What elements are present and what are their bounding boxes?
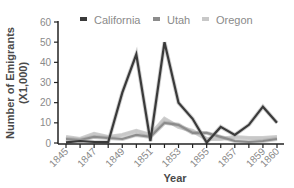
x-tick-label: 1849 — [103, 145, 127, 169]
legend-item-california: California — [80, 14, 141, 26]
x-tick-label: 1855 — [188, 145, 212, 169]
y-axis-title-line2: (X1,000) — [17, 62, 29, 105]
x-axis-title: Year — [163, 172, 187, 184]
y-tick-label: 30 — [40, 77, 52, 88]
axes: 0102030405060 18451847184918511853185518… — [40, 17, 284, 170]
legend: CaliforniaUtahOregon — [80, 14, 253, 26]
y-tick-label: 60 — [40, 17, 52, 28]
series-california-line — [66, 42, 277, 142]
x-tick-label: 1845 — [47, 145, 71, 169]
legend-item-utah: Utah — [153, 14, 190, 26]
x-tick-label: 1853 — [159, 145, 183, 169]
y-ticks: 0102030405060 — [40, 17, 58, 149]
emigrants-line-chart: CaliforniaUtahOregon 0102030405060 18451… — [0, 0, 294, 188]
legend-item-oregon: Oregon — [202, 14, 253, 26]
legend-swatch-utah — [153, 17, 160, 21]
y-axis-title-line1: Number of Emigrants — [4, 27, 16, 139]
legend-label-utah: Utah — [167, 14, 190, 26]
legend-label-california: California — [94, 14, 141, 26]
y-tick-label: 10 — [40, 117, 52, 128]
legend-swatch-oregon — [202, 17, 209, 21]
x-tick-label: 1851 — [131, 145, 155, 169]
x-tick-label: 1847 — [75, 145, 99, 169]
y-tick-label: 0 — [45, 138, 51, 149]
x-ticks: 184518471849185118531855185718591860 — [47, 144, 282, 169]
x-tick-label: 1857 — [216, 145, 240, 169]
y-tick-label: 50 — [40, 37, 52, 48]
series-layer — [66, 42, 277, 142]
y-tick-label: 20 — [40, 97, 52, 108]
y-tick-label: 40 — [40, 57, 52, 68]
legend-label-oregon: Oregon — [216, 14, 253, 26]
legend-swatch-california — [80, 17, 87, 21]
